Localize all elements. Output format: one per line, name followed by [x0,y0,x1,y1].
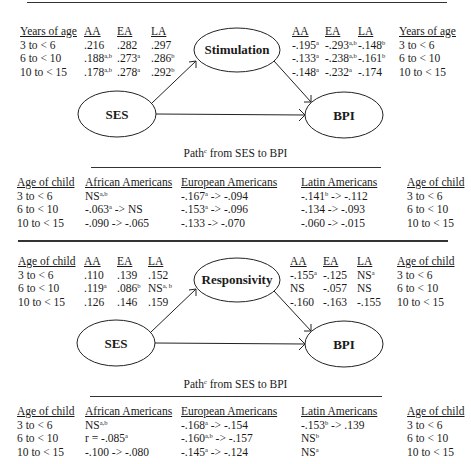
value: -.167 [181,190,205,202]
table-header: Age of child African Americans European … [17,176,467,190]
header-european-americans: European Americans [181,176,301,190]
table-header: Age of child African Americans European … [17,405,467,419]
table-row: 6 to < 10 -.063a -> NS -.153a -> -.096 -… [17,203,467,217]
age-cell: 10 to < 15 [407,446,467,460]
latin-americans-cell: NSa [301,446,407,460]
value: -.141 [301,190,325,202]
outcome-label: BPI [333,108,355,123]
panel1-path-diagram: Stimulation SES BPI [0,0,471,170]
european-americans-cell: -.168a -> -.154 [181,419,301,433]
table-row: 6 to < 10 r = -.085a -.160a,b -> -.157 N… [17,432,467,446]
latin-americans-cell: -.153b -> .139 [301,419,407,433]
value: -> -.154 [208,419,248,431]
header-african-americans: African Americans [85,176,181,190]
age-cell: 6 to < 10 [17,432,85,446]
superscript: a,b [205,432,213,439]
value: NS [85,190,100,202]
european-americans-cell: -.145a -> -.124 [181,446,301,460]
age-cell: 10 to < 15 [17,217,85,231]
value: -> -.096 [208,203,248,215]
value: -.090 [85,217,109,229]
superscript: a,b [100,190,108,197]
exposure-label: SES [105,107,128,122]
panel1-path-caption: Pathc from SES to BPI [0,147,471,159]
age-cell: 3 to < 6 [407,419,467,433]
value: -> .139 [328,419,364,431]
value: -> -.093 [325,203,365,215]
superscript: a [125,432,128,439]
value: -> NS [112,203,143,215]
header-age-of-child: Age of child [17,176,85,190]
value: -.063 [85,203,109,215]
latin-americans-cell: -.141b -> -.112 [301,190,407,204]
value: -.168 [181,419,205,431]
table-row: 3 to < 6 NSa,b -.167a -> -.094 -.141b ->… [17,190,467,204]
value: -> -.112 [328,190,368,202]
caption-text: Path [184,147,204,159]
european-americans-cell: -.133 -> -.070 [181,217,301,231]
superscript: a [316,446,319,453]
arrow-mediator-to-outcome [274,291,311,331]
panel2-path-table: Age of child African Americans European … [17,405,467,459]
header-latin-americans: Latin Americans [301,176,407,190]
african-americans-cell: NSa,b [85,190,181,204]
value: -.153 [301,419,325,431]
age-cell: 6 to < 10 [17,203,85,217]
age-cell: 6 to < 10 [407,203,467,217]
header-age-of-child: Age of child [407,176,467,190]
value: NS [301,446,316,458]
table-row: 10 to < 15 -.100 -> -.080 -.145a -> -.12… [17,446,467,460]
arrow-exposure-to-outcome [155,343,305,344]
value: NS [85,419,100,431]
exposure-label: SES [104,336,127,351]
value: r = -.085 [85,432,125,444]
arrow-mediator-to-outcome [274,61,311,102]
header-age-of-child: Age of child [17,405,85,419]
value: -> -.015 [325,217,365,229]
european-americans-cell: -.153a -> -.096 [181,203,301,217]
african-americans-cell: NSa,b [85,419,181,433]
value: -> -.124 [208,446,248,458]
age-cell: 10 to < 15 [407,217,467,231]
caption-text: Path [184,378,204,390]
header-european-americans: European Americans [181,405,301,419]
superscript: b [316,432,319,439]
african-americans-cell: -.100 -> -.080 [85,446,181,460]
header-african-americans: African Americans [85,405,181,419]
latin-americans-cell: -.060 -> -.015 [301,217,407,231]
african-americans-cell: -.090 -> -.065 [85,217,181,231]
mediator-label: Responsivity [202,272,273,287]
caption-text: from SES to BPI [207,147,288,159]
european-americans-cell: -.160a,b -> -.157 [181,432,301,446]
arrow-exposure-to-outcome [156,114,305,115]
mediator-label: Stimulation [204,42,270,57]
age-cell: 6 to < 10 [407,432,467,446]
outcome-label: BPI [333,337,355,352]
value: -.100 [85,446,109,458]
header-latin-americans: Latin Americans [301,405,407,419]
value: -.133 [181,217,205,229]
african-americans-cell: r = -.085a [85,432,181,446]
table-row: 3 to < 6 NSa,b -.168a -> -.154 -.153b ->… [17,419,467,433]
value: -.145 [181,446,205,458]
value: -.134 [301,203,325,215]
age-cell: 3 to < 6 [17,419,85,433]
panel1-caption-rule [91,167,381,168]
panel1-path-table: Age of child African Americans European … [17,176,467,230]
age-cell: 3 to < 6 [407,190,467,204]
caption-text: from SES to BPI [207,378,288,390]
panel2-caption-rule [90,396,382,397]
latin-americans-cell: -.134 -> -.093 [301,203,407,217]
panel2-path-caption: Pathc from SES to BPI [0,378,471,390]
value: -.153 [181,203,205,215]
value: -> -.157 [213,432,253,444]
african-americans-cell: -.063a -> NS [85,203,181,217]
arrow-exposure-to-mediator [151,289,196,332]
table-row: 10 to < 15 -.090 -> -.065 -.133 -> -.070… [17,217,467,231]
value: -.060 [301,217,325,229]
value: NS [301,432,316,444]
value: -> -.094 [208,190,248,202]
superscript: a,b [100,419,108,426]
value: -> -.070 [205,217,245,229]
value: -.160 [181,432,205,444]
